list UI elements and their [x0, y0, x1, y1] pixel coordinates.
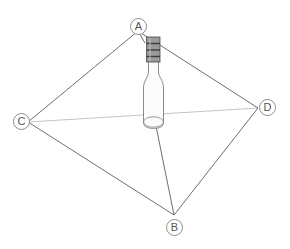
edge-c-b — [28, 122, 174, 215]
vertex-label-c: C — [13, 113, 30, 130]
vertex-label-c-text: C — [18, 115, 26, 127]
diagram-canvas: A B C D — [0, 0, 290, 249]
vertex-label-d: D — [259, 99, 276, 116]
geometry-figure — [0, 0, 290, 249]
bottle-body-outline — [144, 55, 164, 128]
wine-bottle — [144, 37, 164, 128]
vertex-label-a: A — [130, 18, 147, 35]
vertex-label-b: B — [166, 219, 183, 236]
vertex-label-a-text: A — [135, 20, 142, 32]
diagonal-c-d — [28, 108, 258, 122]
vertex-label-d-text: D — [264, 101, 272, 113]
edge-b-d — [174, 108, 258, 215]
diagonal-a-b-lower — [156, 126, 174, 215]
vertex-label-b-text: B — [171, 221, 178, 233]
edge-a-c — [28, 31, 138, 122]
